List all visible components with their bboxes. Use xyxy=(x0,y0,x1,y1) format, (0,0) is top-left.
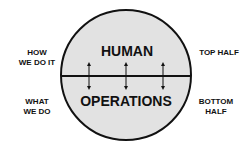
bottom-half-label: OPERATIONS xyxy=(70,93,182,109)
left-top-label: HOW WE DO IT xyxy=(14,48,60,68)
right-bottom-label: BOTTOM HALF xyxy=(194,97,238,117)
circle-diagram xyxy=(0,0,251,149)
top-half-label: HUMAN xyxy=(92,43,162,59)
left-bottom-label: WHAT WE DO xyxy=(18,97,56,117)
right-top-label: TOP HALF xyxy=(194,48,244,58)
